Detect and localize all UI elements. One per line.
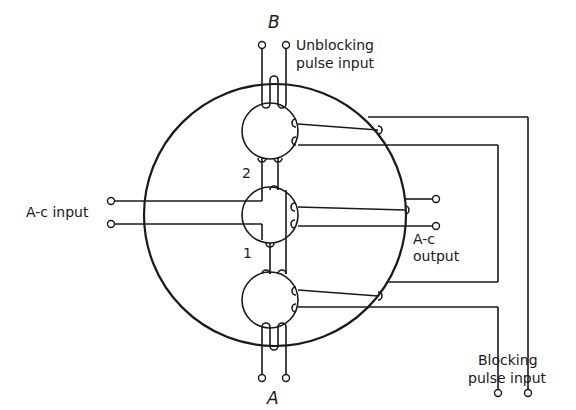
terminal-a-left [259, 375, 266, 382]
label-blocking-2: pulse input [468, 370, 547, 386]
terminal-ac-input-bottom [108, 221, 115, 228]
aperture-bottom [242, 272, 298, 328]
label-b: B [268, 12, 280, 32]
core-circuit-diagram: B Unblocking pulse input 2 A-c input 1 [0, 0, 576, 410]
a-winding [262, 323, 286, 376]
terminal-b-right [283, 42, 290, 49]
unblocking-winding [262, 48, 286, 108]
label-ac-input: A-c input [26, 204, 89, 220]
ac-output-winding [291, 199, 433, 228]
terminal-a-right [283, 375, 290, 382]
terminal-ac-output-bottom [433, 223, 440, 230]
label-leg-2: 2 [242, 165, 251, 181]
terminal-blocking-right [525, 390, 532, 397]
label-a: A [266, 388, 279, 408]
label-ac-output-2: output [413, 248, 460, 264]
terminal-blocking-left [495, 390, 502, 397]
terminal-b-left [259, 42, 266, 49]
terminal-ac-output-top [433, 196, 440, 203]
label-unblocking-2: pulse input [296, 55, 375, 71]
label-leg-1: 1 [243, 245, 252, 261]
aperture-middle [242, 187, 298, 243]
leg-2-link [258, 158, 282, 190]
leg-1-link [262, 243, 286, 274]
aperture-top [242, 103, 298, 159]
ac-input-winding [114, 190, 262, 240]
label-unblocking-1: Unblocking [296, 37, 374, 53]
label-blocking-1: Blocking [478, 352, 538, 368]
label-ac-output-1: A-c [413, 231, 435, 247]
top-aperture-windings [292, 117, 528, 390]
terminal-ac-input-top [108, 198, 115, 205]
